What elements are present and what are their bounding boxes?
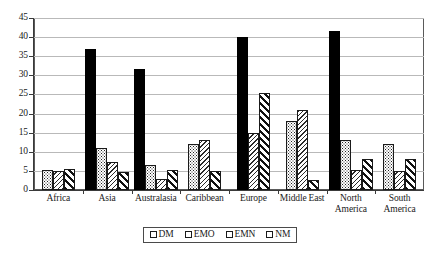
bar-group <box>132 18 181 190</box>
bar-nm-africa <box>64 169 75 190</box>
bar-emn-caribbean <box>199 140 210 190</box>
legend-swatch-emo-icon <box>185 231 192 238</box>
y-axis-tick-15: 15 <box>19 128 28 138</box>
x-axis-label-australasia: Australasia <box>132 193 181 214</box>
bar-emo-middle-east <box>286 121 297 190</box>
x-axis-label-asia: Asia <box>83 193 132 214</box>
bar-emn-europe <box>248 133 259 190</box>
bar-emo-asia <box>96 148 107 190</box>
x-axis-label-africa: Africa <box>34 193 83 214</box>
y-axis-tick-0: 0 <box>23 185 28 195</box>
legend: DMEMOEMNNM <box>0 227 440 243</box>
y-axis-tick-10: 10 <box>19 147 28 157</box>
bar-emo-south-america <box>383 144 394 190</box>
legend-item-nm[interactable]: NM <box>266 229 290 240</box>
bar-nm-north-america <box>362 159 373 190</box>
y-axis-tick-5: 5 <box>23 166 28 176</box>
legend-label: EMN <box>235 229 256 240</box>
x-axis-label-caribbean: Caribbean <box>180 193 229 214</box>
legend-swatch-emn-icon <box>226 231 233 238</box>
y-axis-tick-35: 35 <box>19 51 28 61</box>
legend-label: DM <box>159 229 174 240</box>
legend-swatch-dm-icon <box>150 231 157 238</box>
bar-group <box>34 18 83 190</box>
bar-groups <box>34 18 424 190</box>
bar-dm-australasia <box>134 69 145 190</box>
bar-emn-africa <box>53 171 64 190</box>
y-axis-tick-40: 40 <box>19 32 28 42</box>
bar-nm-middle-east <box>308 180 319 190</box>
bar-nm-caribbean <box>210 171 221 190</box>
bar-nm-australasia <box>167 170 178 190</box>
bar-emo-africa <box>42 170 53 190</box>
bar-emn-middle-east <box>297 110 308 190</box>
plot-area-wrapper <box>34 18 424 190</box>
y-axis: 454035302520151050 <box>0 18 34 190</box>
bar-emn-south-america <box>394 171 405 190</box>
x-axis-label-middle-east: Middle East <box>278 193 327 214</box>
bar-group <box>327 18 376 190</box>
legend-label: NM <box>275 229 290 240</box>
bar-emo-australasia <box>145 165 156 190</box>
y-axis-tick-25: 25 <box>19 90 28 100</box>
bar-group <box>229 18 278 190</box>
bar-emn-north-america <box>351 170 362 190</box>
bar-emo-caribbean <box>188 144 199 190</box>
y-axis-tick-20: 20 <box>19 109 28 119</box>
legend-item-emn[interactable]: EMN <box>226 229 256 240</box>
legend-item-dm[interactable]: DM <box>150 229 174 240</box>
legend-label: EMO <box>194 229 215 240</box>
x-axis-category-labels: AfricaAsiaAustralasiaCaribbeanEuropeMidd… <box>34 193 424 214</box>
bar-group <box>83 18 132 190</box>
bar-emn-australasia <box>156 179 167 190</box>
y-axis-tick-30: 30 <box>19 71 28 81</box>
legend-box: DMEMOEMNNM <box>143 227 298 243</box>
bar-group <box>278 18 327 190</box>
bar-nm-south-america <box>405 159 416 190</box>
x-axis-label-north-america: North America <box>327 193 376 214</box>
bar-nm-asia <box>118 172 129 190</box>
bar-dm-north-america <box>329 31 340 190</box>
bar-emn-asia <box>107 162 118 190</box>
y-axis-tick-45: 45 <box>19 13 28 23</box>
bar-group <box>180 18 229 190</box>
bar-dm-europe <box>237 37 248 190</box>
bar-nm-europe <box>259 93 270 190</box>
x-axis-label-south-america: South America <box>375 193 424 214</box>
legend-item-emo[interactable]: EMO <box>185 229 215 240</box>
bar-dm-asia <box>85 49 96 190</box>
bar-group <box>375 18 424 190</box>
x-axis-label-europe: Europe <box>229 193 278 214</box>
bar-emo-north-america <box>340 140 351 190</box>
legend-swatch-nm-icon <box>266 231 273 238</box>
grouped-bar-chart: 454035302520151050 AfricaAsiaAustralasia… <box>0 0 440 255</box>
